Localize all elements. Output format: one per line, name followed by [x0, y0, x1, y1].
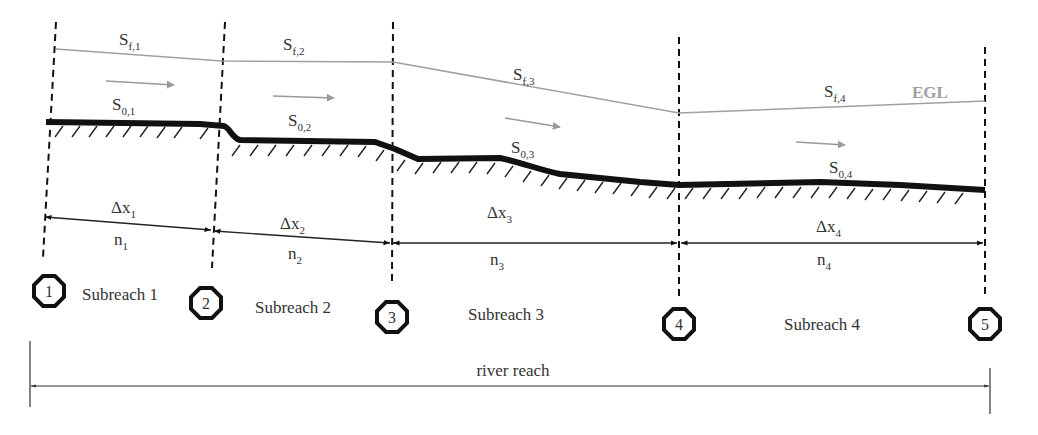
- roughness-label-1: n1: [114, 230, 128, 252]
- bed-slope-label-3: S0,3: [511, 138, 535, 160]
- roughness-label-4: n4: [817, 250, 832, 272]
- egl-label: EGL: [912, 83, 948, 102]
- friction-slope-label-3: Sf,3: [513, 65, 535, 87]
- roughness-label-2: n2: [288, 244, 302, 266]
- bed-hatching: [55, 126, 963, 204]
- length-label-3: Δx3: [487, 203, 512, 225]
- section-marker-1: 1: [34, 276, 64, 306]
- friction-slope-label-1: Sf,1: [119, 30, 140, 52]
- bed-slope-label-1: S0,1: [112, 95, 135, 117]
- section-line-1: [43, 22, 56, 258]
- bed-slope-label-2: S0,2: [288, 111, 311, 133]
- dimension-arrows: [45, 217, 983, 243]
- section-marker-5: 5: [970, 309, 1000, 339]
- svg-text:3: 3: [388, 309, 396, 326]
- svg-text:4: 4: [675, 316, 683, 333]
- friction-slope-label-2: Sf,2: [283, 35, 304, 57]
- roughness-label-3: n3: [490, 250, 505, 272]
- flow-arrow-icon: [106, 81, 174, 85]
- svg-text:2: 2: [202, 295, 210, 312]
- subreach-label-1: Subreach 1: [82, 285, 158, 304]
- svg-text:5: 5: [981, 316, 989, 333]
- flow-arrow-icon: [796, 142, 845, 145]
- river-reach-label: river reach: [476, 361, 550, 380]
- river-reach-diagram: Sf,1 Sf,2 Sf,3 Sf,4 EGL S0,1 S0,2 S0,3 S…: [0, 0, 1038, 435]
- subreach-label-2: Subreach 2: [255, 298, 331, 317]
- length-label-4: Δx4: [816, 217, 841, 239]
- subreach-label-3: Subreach 3: [468, 305, 544, 324]
- subreach-label-4: Subreach 4: [784, 315, 861, 334]
- section-line-3: [392, 22, 393, 282]
- length-label-2: Δx2: [280, 214, 305, 236]
- svg-text:1: 1: [45, 283, 53, 300]
- flow-arrow-icon: [273, 96, 334, 98]
- section-marker-4: 4: [664, 309, 694, 339]
- friction-slope-label-4: Sf,4: [824, 82, 846, 104]
- length-label-1: Δx1: [111, 198, 136, 220]
- flow-arrow-icon: [505, 118, 560, 127]
- length-arrow-1: [45, 217, 211, 230]
- flow-arrows: [106, 81, 845, 145]
- section-marker-2: 2: [191, 288, 221, 318]
- bed-slope-label-4: S0,4: [829, 158, 853, 180]
- section-marker-3: 3: [377, 302, 407, 332]
